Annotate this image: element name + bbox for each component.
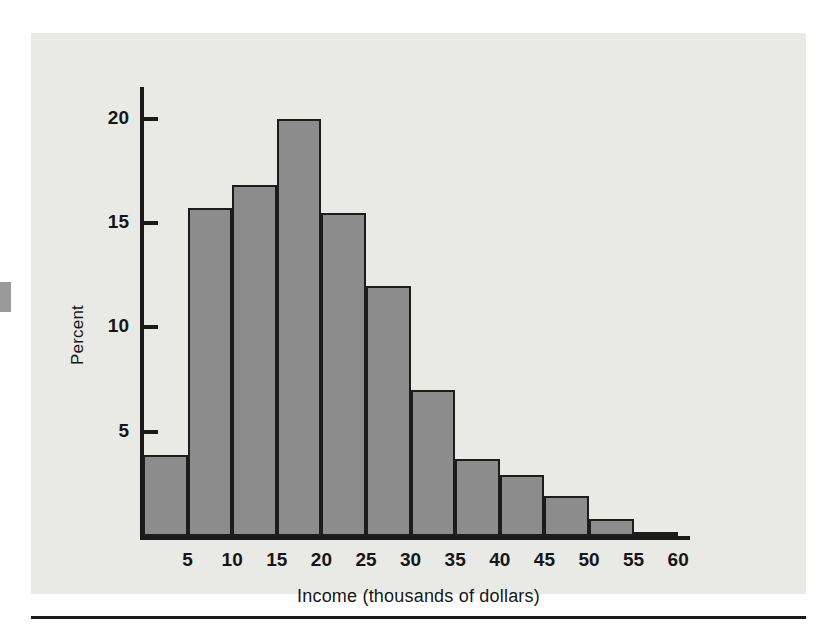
- y-axis-tick: [144, 430, 158, 434]
- histogram-bar: [366, 286, 411, 536]
- y-axis-tick: [144, 221, 158, 225]
- histogram-bar: [232, 185, 277, 536]
- plot-area: 5101520 51015202530354045505560 Percent …: [31, 33, 806, 594]
- y-axis-tick: [144, 117, 158, 121]
- y-axis-title: Percent: [68, 305, 88, 365]
- x-axis-tick-label: 30: [386, 549, 436, 571]
- histogram-bar: [277, 119, 322, 536]
- x-axis-tick-label: 15: [252, 549, 302, 571]
- histogram-figure: 5101520 51015202530354045505560 Percent …: [31, 33, 806, 594]
- y-axis-tick-label: 15: [81, 211, 129, 233]
- x-axis-title: Income (thousands of dollars): [31, 586, 806, 607]
- page-edge-mark: [0, 282, 11, 312]
- y-axis-tick-label: 20: [81, 107, 129, 129]
- footer-rule: [31, 616, 806, 619]
- x-axis-tick-label: 10: [207, 549, 257, 571]
- x-axis-line: [140, 536, 690, 540]
- histogram-bar: [321, 213, 366, 536]
- histogram-bar: [589, 519, 634, 536]
- x-axis-tick-label: 25: [341, 549, 391, 571]
- histogram-bar: [455, 459, 500, 536]
- x-axis-tick-label: 20: [296, 549, 346, 571]
- histogram-bar: [500, 475, 545, 536]
- histogram-bar: [634, 532, 679, 536]
- y-axis-tick-label: 10: [81, 315, 129, 337]
- histogram-bar: [143, 455, 188, 536]
- y-axis-tick: [144, 325, 158, 329]
- x-axis-tick-label: 35: [430, 549, 480, 571]
- histogram-bar: [544, 496, 589, 536]
- x-axis-tick-label: 40: [475, 549, 525, 571]
- histogram-bar: [411, 390, 456, 536]
- x-axis-tick-label: 45: [519, 549, 569, 571]
- x-axis-tick-label: 50: [564, 549, 614, 571]
- x-axis-tick-label: 60: [653, 549, 703, 571]
- y-axis-tick-label: 5: [81, 420, 129, 442]
- histogram-bar: [188, 208, 233, 536]
- x-axis-tick-label: 55: [609, 549, 659, 571]
- x-axis-tick-label: 5: [163, 549, 213, 571]
